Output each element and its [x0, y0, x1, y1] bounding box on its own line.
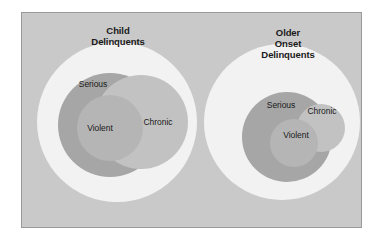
venn-group-older-onset-delinquents — [204, 44, 360, 200]
diagram-title-line: Delinquents — [261, 50, 314, 61]
diagram-title-child-delinquents: ChildDelinquents — [91, 25, 144, 47]
diagram-title-line: Child — [91, 25, 144, 36]
circle-older-onset-delinquents-violent — [270, 119, 318, 167]
circle-label-older-onset-delinquents-violent: Violent — [283, 130, 309, 140]
circle-label-older-onset-delinquents-chronic: Chronic — [308, 106, 337, 116]
venn-group-child-delinquents — [37, 42, 197, 202]
circle-label-child-delinquents-serious: Serious — [79, 79, 107, 89]
diagram-title-line: Delinquents — [91, 36, 144, 47]
circle-label-child-delinquents-violent: Violent — [87, 123, 113, 133]
diagram-title-line: Onset — [261, 38, 314, 49]
venn-figure: ChildDelinquentsSeriousChronicViolentOld… — [0, 0, 380, 243]
diagram-title-older-onset-delinquents: OlderOnsetDelinquents — [261, 27, 314, 61]
figure-frame: ChildDelinquentsSeriousChronicViolentOld… — [21, 12, 362, 228]
circle-label-child-delinquents-chronic: Chronic — [144, 117, 173, 127]
diagram-title-line: Older — [261, 27, 314, 38]
circle-label-older-onset-delinquents-serious: Serious — [267, 100, 295, 110]
